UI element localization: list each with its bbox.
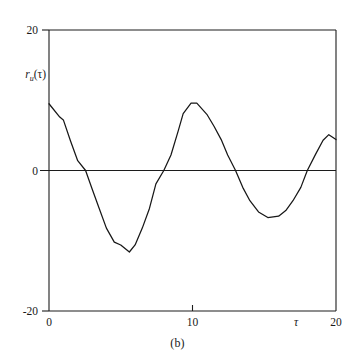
figure-caption: (b) bbox=[0, 336, 355, 351]
y-axis-label-arg: (τ) bbox=[34, 68, 46, 81]
y-tick-label-bottom: -20 bbox=[23, 305, 39, 317]
y-tick-label-zero: 0 bbox=[32, 165, 38, 177]
figure-container: 20 0 -20 0 10 20 τ ru(τ) (b) bbox=[0, 0, 355, 361]
x-tick-label-0: 0 bbox=[46, 316, 52, 328]
x-tick-label-10: 10 bbox=[187, 316, 199, 328]
x-axis-label: τ bbox=[294, 316, 299, 328]
autocorrelation-plot: 20 0 -20 0 10 20 τ ru(τ) bbox=[0, 0, 355, 361]
data-curve-autocorrelation bbox=[49, 103, 336, 252]
y-axis-label: ru(τ) bbox=[25, 68, 46, 83]
x-tick-label-20: 20 bbox=[330, 316, 342, 328]
y-tick-label-top: 20 bbox=[27, 24, 39, 36]
